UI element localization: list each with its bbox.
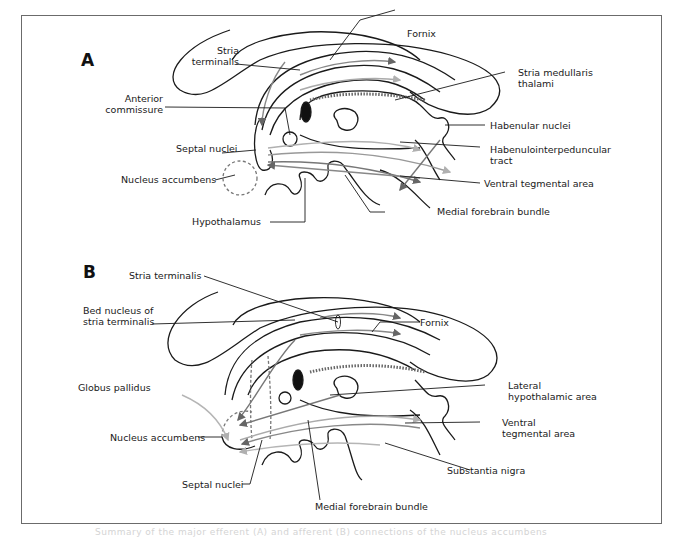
label-a-hypothalamus: Hypothalamus: [192, 216, 261, 227]
label-a-stria-medullaris-thalami: Stria medullaris thalami: [518, 67, 598, 89]
label-b-septal-nuclei: Septal nuclei: [182, 479, 244, 490]
label-a-ventral-tegmental-area: Ventral tegmental area: [484, 178, 594, 189]
label-a-nucleus-accumbens: Nucleus accumbens: [121, 174, 216, 185]
label-a-anterior-commissure: Anterior commissure: [105, 93, 163, 115]
panel-a-leaders: [165, 10, 505, 222]
label-b-bed-nucleus: Bed nucleus of stria terminalis: [83, 305, 155, 327]
label-b-nucleus-accumbens: Nucleus accumbens: [110, 432, 205, 443]
label-b-fornix: Fornix: [420, 317, 449, 328]
figure-caption: Summary of the major efferent (A) and af…: [95, 527, 547, 537]
label-b-globus-pallidus: Globus pallidus: [78, 382, 151, 393]
label-b-stria-terminalis: Stria terminalis: [129, 270, 201, 281]
label-a-septal-nuclei: Septal nuclei: [176, 143, 238, 154]
label-a-medial-forebrain-bundle: Medial forebrain bundle: [437, 206, 550, 217]
panel-b-letter: B: [83, 262, 96, 282]
panel-a-letter: A: [81, 50, 94, 70]
label-a-stria-terminalis: Stria terminalis: [183, 45, 239, 67]
label-b-lateral-hypothalamic-area: Lateral hypothalamic area: [508, 380, 600, 402]
panel-b-leaders: [152, 276, 485, 500]
label-b-medial-forebrain-bundle: Medial forebrain bundle: [315, 501, 428, 512]
label-a-fornix: Fornix: [407, 28, 436, 39]
label-a-habenular-nuclei: Habenular nuclei: [490, 120, 571, 131]
label-b-substantia-nigra: Substantia nigra: [447, 465, 525, 476]
label-b-ventral-tegmental-area: Ventral tegmental area: [502, 417, 582, 439]
label-a-habenulointerpeduncular-tract: Habenulointerpeduncular tract: [490, 144, 610, 166]
